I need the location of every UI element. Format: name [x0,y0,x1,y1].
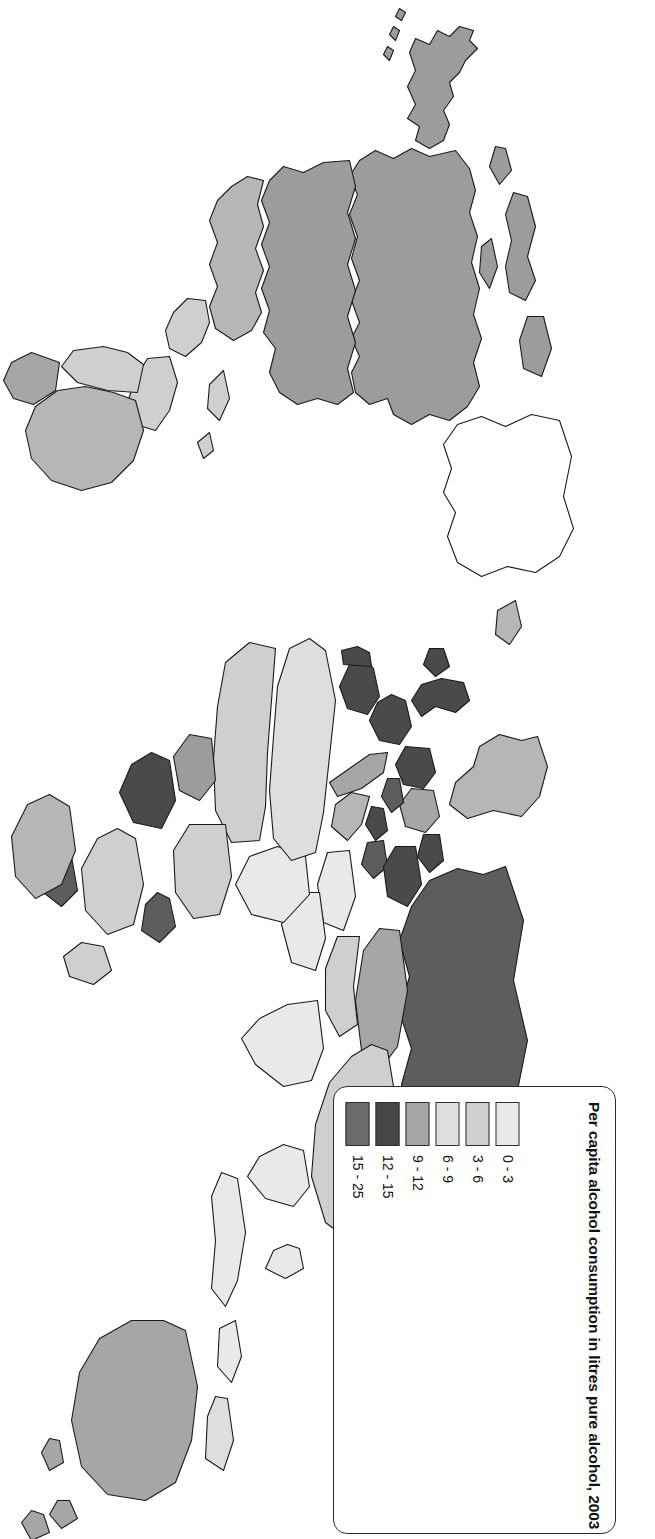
legend-label-9-12: 9 - 12 [411,1155,425,1191]
legend-item-3-6: 3 - 6 [465,1102,490,1199]
legend-label-15-25: 15 - 25 [351,1155,365,1199]
legend-swatch-6-9 [436,1102,460,1146]
figure-root: .ld{stroke:#1a1a1a;stroke-width:1.1;stro… [0,0,655,1539]
legend-swatch-3-6 [466,1102,490,1146]
legend-item-6-9: 6 - 9 [435,1102,460,1199]
legend-title: Per capita alcohol consumption in litres… [585,1102,602,1518]
legend-swatch-12-15 [376,1102,400,1146]
map-legend: Per capita alcohol consumption in litres… [333,1086,616,1534]
legend-swatch-9-12 [406,1102,430,1146]
legend-label-3-6: 3 - 6 [471,1155,485,1183]
legend-item-0-3: 0 - 3 [495,1102,520,1199]
legend-label-0-3: 0 - 3 [501,1155,515,1183]
legend-label-6-9: 6 - 9 [441,1155,455,1183]
region-greenland [443,414,573,576]
legend-inner: Per capita alcohol consumption in litres… [333,1086,616,1534]
legend-label-12-15: 12 - 15 [381,1155,395,1199]
legend-item-list: 0 - 3 3 - 6 6 - 9 9 - 12 12 - 15 [345,1102,520,1199]
legend-swatch-0-3 [496,1102,520,1146]
legend-item-9-12: 9 - 12 [405,1102,430,1199]
region-canada [349,148,481,424]
legend-item-12-15: 12 - 15 [375,1102,400,1199]
region-mexico [209,176,263,340]
region-united-states [261,160,355,404]
legend-item-15-25: 15 - 25 [345,1102,370,1199]
legend-swatch-15-25 [346,1102,370,1146]
